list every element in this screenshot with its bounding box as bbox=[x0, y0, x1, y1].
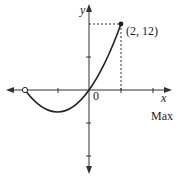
x-axis-left-arrow-icon bbox=[6, 87, 14, 93]
x-axis-label: x bbox=[161, 91, 166, 106]
function-curve bbox=[25, 24, 121, 112]
open-endpoint-marker bbox=[22, 87, 27, 92]
closed-endpoint-marker bbox=[119, 22, 124, 27]
point-label: (2, 12) bbox=[126, 24, 158, 39]
y-axis-down-arrow-icon bbox=[86, 166, 92, 174]
max-label: Max bbox=[151, 109, 173, 124]
y-axis-up-arrow-icon bbox=[86, 4, 92, 12]
origin-label: 0 bbox=[93, 89, 99, 104]
function-graph: y x 0 (2, 12) Max bbox=[0, 0, 178, 182]
y-axis-label: y bbox=[80, 3, 85, 18]
